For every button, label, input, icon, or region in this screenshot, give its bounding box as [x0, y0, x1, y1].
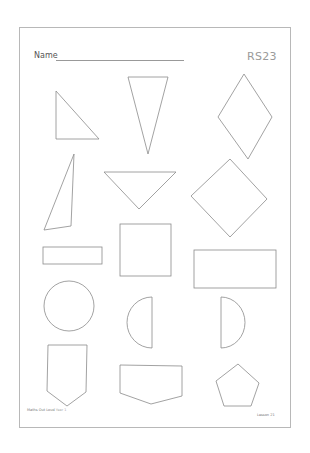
footer-lesson: Lesson 21 — [257, 413, 275, 417]
semicircle-left-shape — [127, 297, 152, 348]
inverted-triangle-shape — [104, 172, 176, 209]
circle-shape — [44, 281, 94, 331]
right-triangle-shape — [56, 91, 99, 139]
wide-pentagon-shape — [120, 365, 182, 404]
pentagon-pointed-shape — [47, 345, 87, 406]
shapes-canvas — [0, 0, 310, 453]
square-shape — [120, 224, 171, 276]
rotated-square-shape — [191, 159, 267, 237]
footer-year: Year 1 — [56, 408, 67, 412]
rectangle-shape — [194, 250, 276, 288]
thin-rectangle-shape — [43, 247, 102, 264]
regular-pentagon-shape — [216, 364, 259, 406]
footer-series: Maths Out Loud Year 1 — [27, 408, 67, 412]
scalene-triangle-shape — [44, 154, 74, 230]
isosceles-triangle-shape — [128, 77, 168, 154]
footer-series-name: Maths Out Loud — [27, 408, 55, 412]
rhombus-shape — [218, 74, 272, 159]
semicircle-right-shape — [221, 297, 245, 348]
